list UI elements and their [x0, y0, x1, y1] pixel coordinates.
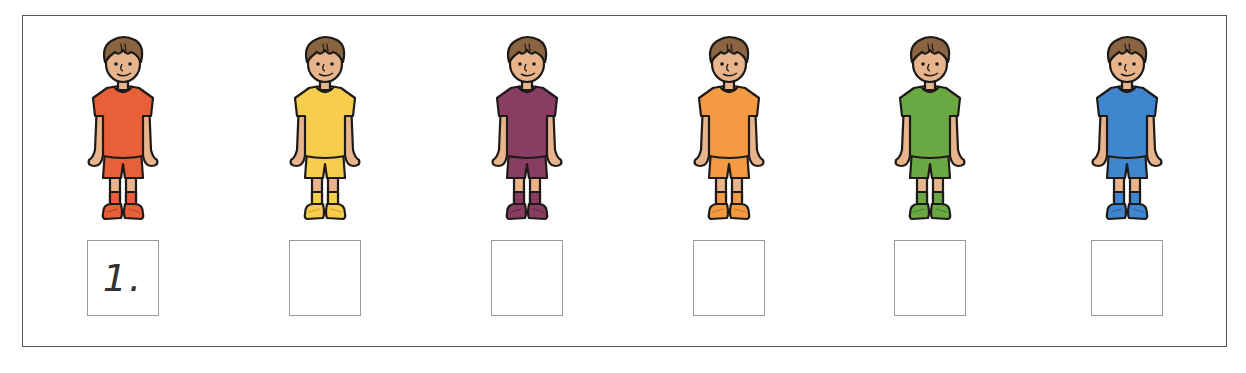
boy-figure-purple	[485, 32, 569, 232]
figure-slot-6	[1067, 16, 1187, 348]
boy-figure-red	[81, 32, 165, 232]
figure-slot-5	[870, 16, 990, 348]
answer-box-5[interactable]	[894, 240, 966, 316]
figure-slot-2	[265, 16, 385, 348]
boy-figure-green	[888, 32, 972, 232]
answer-box-3[interactable]	[491, 240, 563, 316]
answer-box-4[interactable]	[693, 240, 765, 316]
answer-box-6[interactable]	[1091, 240, 1163, 316]
figure-slot-3	[467, 16, 587, 348]
answer-box-1[interactable]: 1.	[87, 240, 159, 316]
answer-box-2[interactable]	[289, 240, 361, 316]
figure-slot-4	[669, 16, 789, 348]
boy-figure-blue	[1085, 32, 1169, 232]
boy-figure-orange	[687, 32, 771, 232]
boy-figure-yellow	[283, 32, 367, 232]
worksheet-frame: 1.	[22, 15, 1227, 347]
figure-slot-1: 1.	[63, 16, 183, 348]
